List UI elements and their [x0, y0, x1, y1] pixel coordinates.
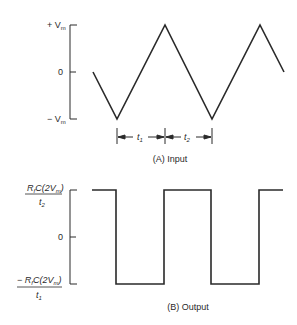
label-bottom-fraction: − RfC(2Vm) t1	[17, 275, 62, 301]
caption-input: (A) Input	[153, 154, 188, 164]
square-waveform	[92, 190, 283, 284]
triangle-waveform	[93, 25, 284, 119]
panel-a-input: + Vm 0 − Vm t1 t2 (A) I	[47, 20, 284, 164]
svg-text:RfC(2Vm): RfC(2Vm)	[27, 183, 64, 194]
interval-markers	[117, 128, 212, 144]
label-top-fraction: RfC(2Vm) t2	[25, 183, 64, 208]
label-t2: t2	[184, 132, 191, 143]
panel-b-output: RfC(2Vm) t2 0 − RfC(2Vm) t1 (B) Output	[17, 183, 283, 312]
panel-a-axis	[70, 25, 77, 119]
svg-text:− RfC(2Vm): − RfC(2Vm)	[17, 275, 61, 286]
integrator-waveform-diagram: + Vm 0 − Vm t1 t2 (A) I	[0, 0, 297, 325]
svg-text:t1: t1	[36, 290, 42, 301]
label-zero-a: 0	[58, 67, 63, 77]
label-minus-vm: − Vm	[47, 114, 66, 125]
caption-output: (B) Output	[167, 302, 209, 312]
label-zero-b: 0	[58, 232, 63, 242]
svg-text:t2: t2	[39, 197, 46, 208]
label-t1: t1	[137, 132, 143, 143]
label-plus-vm: + Vm	[47, 20, 66, 31]
panel-b-axis	[70, 190, 77, 284]
